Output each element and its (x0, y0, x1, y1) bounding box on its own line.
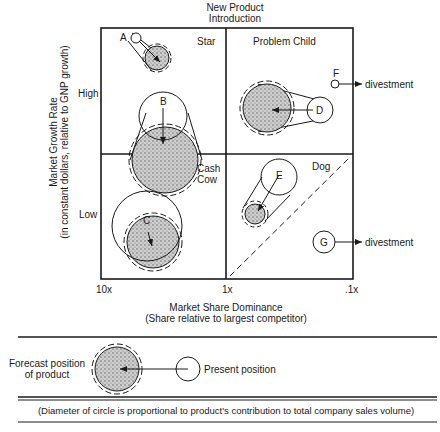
new-product-label: New Product Introduction (180, 2, 290, 24)
quadrant-dog-label: Dog (312, 161, 330, 172)
legend-present-label: Present position (204, 364, 276, 375)
x-tick-10x: 10x (96, 284, 112, 295)
cash-cow-line1: Cash (197, 163, 220, 174)
product-f-label: F (333, 68, 339, 79)
new-product-line1: New Product (180, 2, 290, 13)
product-c (112, 191, 182, 271)
x-axis-title-line2: (Share relative to largest competitor) (120, 313, 332, 324)
cash-cow-line2: Cow (197, 174, 220, 185)
product-b (129, 92, 202, 196)
y-axis-title: Market Growth Rate (in constant dollars,… (48, 22, 72, 262)
new-product-line2: Introduction (180, 13, 290, 24)
x-axis-title-line1: Market Share Dominance (120, 302, 332, 313)
product-e (242, 159, 297, 227)
quadrant-star-label: Star (197, 36, 215, 47)
product-f (331, 80, 362, 88)
product-e-label: E (276, 170, 283, 181)
x-tick-1x: 1x (222, 284, 233, 295)
y-axis-title-line2: (in constant dollars, relative to GNP gr… (59, 22, 70, 262)
divestment-g-label: divestment (365, 237, 413, 248)
quadrant-problem-child-label: Problem Child (253, 36, 316, 47)
legend-symbols (92, 344, 200, 394)
legend-forecast-line2: of product (2, 369, 92, 380)
y-tick-high: High (78, 88, 99, 99)
x-tick-01x: .1x (345, 284, 358, 295)
product-b-label: B (160, 96, 167, 107)
quadrant-cash-cow-label: Cash Cow (197, 163, 220, 185)
y-tick-low: Low (79, 209, 97, 220)
legend-forecast-line1: Forecast position (2, 358, 92, 369)
product-c-label: C (143, 215, 150, 226)
product-a-label: A (120, 32, 127, 43)
product-d-label: D (316, 105, 323, 116)
product-a (128, 33, 171, 72)
divestment-f-label: divestment (365, 79, 413, 90)
y-axis-title-line1: Market Growth Rate (48, 22, 59, 262)
legend-forecast-label: Forecast position of product (2, 358, 92, 380)
x-axis-title: Market Share Dominance (Share relative t… (120, 302, 332, 324)
product-g-label: G (320, 237, 328, 248)
legend-note: (Diameter of circle is proportional to p… (14, 405, 438, 416)
